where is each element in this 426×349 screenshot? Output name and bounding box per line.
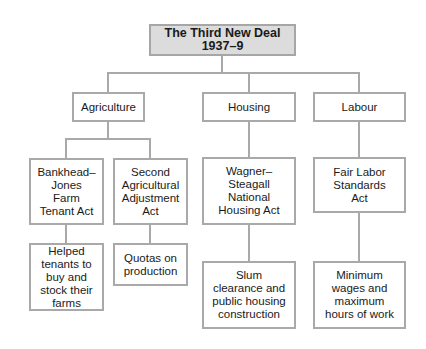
outcome-second-aaa: Quotas on production <box>113 243 188 286</box>
category-label: Agriculture <box>81 101 136 114</box>
connector-top-bar <box>107 72 360 74</box>
connector-second-aaa-outcome <box>149 224 151 243</box>
act-label: Second Agricultural Adjustment Act <box>119 166 182 218</box>
connector-wagner-outcome <box>248 224 250 261</box>
connector-to-labour <box>358 72 360 92</box>
act-bankhead-jones: Bankhead– Jones Farm Tenant Act <box>29 158 104 225</box>
connector-to-second-aaa <box>149 138 151 158</box>
outcome-label: Slum clearance and public housing constr… <box>210 269 288 321</box>
category-label: Labour <box>342 101 378 114</box>
connector-bankhead-outcome <box>65 224 67 243</box>
act-second-aaa: Second Agricultural Adjustment Act <box>113 158 188 225</box>
connector-agriculture-bar <box>65 138 151 140</box>
connector-to-agriculture <box>107 72 109 92</box>
category-housing: Housing <box>202 92 296 122</box>
outcome-label: Quotas on production <box>123 252 178 278</box>
connector-housing-down <box>248 121 250 157</box>
outcome-fair-labor-standards: Minimum wages and maximum hours of work <box>313 261 406 329</box>
act-wagner-steagall: Wagner– Steagall National Housing Act <box>202 157 296 225</box>
outcome-bankhead-jones: Helped tenants to buy and stock their fa… <box>29 243 104 311</box>
act-label: Wagner– Steagall National Housing Act <box>216 165 282 217</box>
outcome-wagner-steagall: Slum clearance and public housing constr… <box>202 261 296 329</box>
category-label: Housing <box>228 101 270 114</box>
connector-fair-labor-outcome <box>358 212 360 261</box>
connector-to-housing <box>248 72 250 92</box>
category-agriculture: Agriculture <box>72 92 145 122</box>
category-labour: Labour <box>313 92 406 122</box>
outcome-label: Minimum wages and maximum hours of work <box>319 269 400 321</box>
act-label: Bankhead– Jones Farm Tenant Act <box>37 166 96 218</box>
diagram-title-text: The Third New Deal 1937–9 <box>151 27 294 53</box>
outcome-label: Helped tenants to buy and stock their fa… <box>32 245 101 310</box>
connector-labour-down <box>358 121 360 157</box>
diagram-title: The Third New Deal 1937–9 <box>149 24 296 56</box>
connector-to-bankhead <box>65 138 67 158</box>
act-fair-labor-standards: Fair Labor Standards Act <box>313 157 406 213</box>
act-label: Fair Labor Standards Act <box>329 166 390 205</box>
